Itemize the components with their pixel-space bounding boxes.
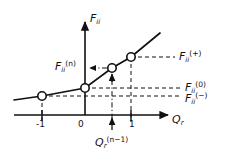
x-tick-label-zero: 0 [78,119,84,129]
label-f-n: Fii(n) [55,60,76,74]
x-axis-label: Qr [172,114,184,127]
x-tick-label-plus-one: 1 [129,119,135,129]
marker-f-zero [81,84,89,92]
x-tick-label-minus-one: -1 [36,119,45,129]
label-f-minus: Fii(−) [185,92,207,106]
curve-markers [38,53,135,100]
figure-canvas: Fii Qr Fii(+) Fii(0) Fii(−) Fii(n) Qr(n−… [0,0,230,162]
label-q-n-minus-1: Qr(n−1) [95,136,128,150]
marker-f-n [108,64,116,72]
label-f-plus: Fii(+) [179,50,201,64]
y-axis-label: Fii [90,13,100,26]
marker-f-plus [127,53,135,61]
marker-f-minus [38,92,46,100]
